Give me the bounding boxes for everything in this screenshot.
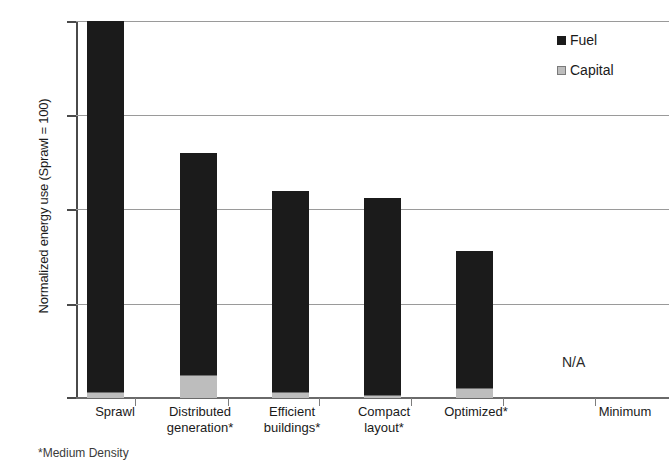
x-label-minimum: Minimum — [576, 404, 671, 420]
x-label-line1: Optimized* — [444, 404, 508, 419]
bar-segment-capital — [456, 388, 493, 398]
x-label-line2: layout* — [335, 420, 433, 436]
legend-item-capital[interactable]: Capital — [557, 59, 614, 81]
y-axis-title: Normalized energy use (Sprawl = 100) — [34, 41, 54, 371]
minimum-na-annotation: N/A — [562, 354, 585, 370]
bar-segment-fuel — [364, 198, 401, 395]
bar-distributed-generation[interactable] — [180, 153, 217, 398]
bar-segment-capital — [364, 395, 401, 398]
gridline-75 — [76, 115, 669, 116]
x-label-sprawl: Sprawl — [66, 404, 164, 420]
x-label-line1: Minimum — [599, 404, 652, 419]
y-tick-mark-25 — [67, 304, 76, 306]
bar-segment-capital — [87, 392, 124, 398]
legend-item-fuel[interactable]: Fuel — [557, 29, 614, 51]
x-label-line1: Distributed — [169, 404, 231, 419]
y-tick-mark-100 — [67, 21, 76, 23]
x-label-optimized: Optimized* — [427, 404, 525, 420]
x-label-line1: Efficient — [269, 404, 315, 419]
x-label-compact-layout: Compact layout* — [335, 404, 433, 436]
fuel-swatch-icon — [557, 36, 566, 45]
y-tick-mark-75 — [67, 115, 76, 117]
bar-segment-fuel — [87, 21, 124, 392]
bar-segment-capital — [180, 375, 217, 398]
bar-segment-fuel — [272, 191, 309, 392]
bar-optimized[interactable] — [456, 251, 493, 398]
x-axis-labels: Sprawl Distributed generation* Efficient… — [76, 404, 669, 450]
y-tick-mark-50 — [67, 209, 76, 211]
bar-segment-fuel — [180, 153, 217, 375]
bar-sprawl[interactable] — [87, 21, 124, 398]
bar-compact-layout[interactable] — [364, 198, 401, 398]
y-tick-mark-0 — [67, 397, 76, 399]
bar-segment-capital — [272, 392, 309, 398]
legend-label-fuel: Fuel — [570, 33, 597, 47]
gridline-100 — [76, 21, 669, 22]
x-label-efficient-buildings: Efficient buildings* — [243, 404, 341, 436]
capital-swatch-icon — [557, 66, 566, 75]
chart-legend: Fuel Capital — [557, 29, 614, 89]
x-label-line1: Compact — [358, 404, 410, 419]
x-label-distributed-generation: Distributed generation* — [151, 404, 249, 436]
x-label-line2: buildings* — [243, 420, 341, 436]
x-label-line1: Sprawl — [95, 404, 135, 419]
x-label-line2: generation* — [151, 420, 249, 436]
bar-segment-fuel — [456, 251, 493, 388]
legend-label-capital: Capital — [570, 63, 614, 77]
bar-efficient-buildings[interactable] — [272, 191, 309, 398]
chart-footnote: *Medium Density — [38, 446, 129, 460]
